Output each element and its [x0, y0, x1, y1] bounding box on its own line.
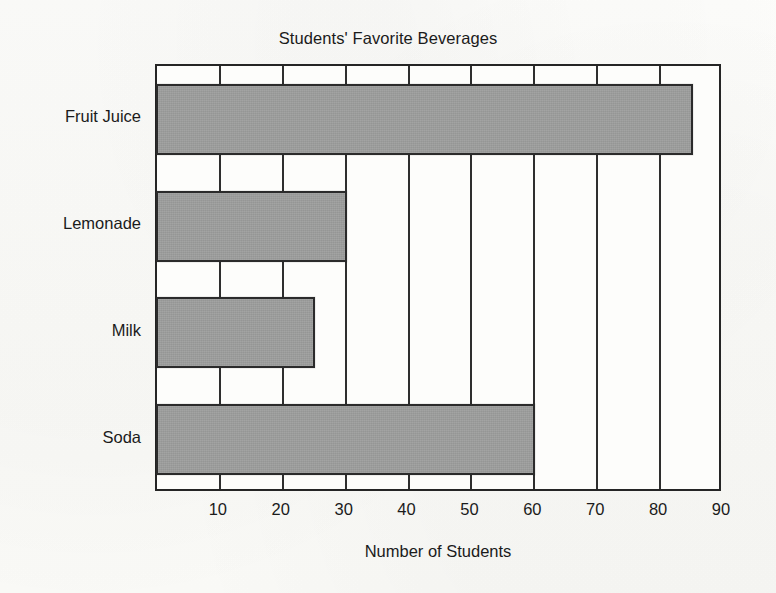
x-tick-label-80: 80 — [638, 500, 678, 519]
x-tick-label-10: 10 — [198, 500, 238, 519]
x-tick-label-70: 70 — [575, 500, 615, 519]
bar-fruit-juice — [156, 84, 693, 155]
plot-area — [155, 64, 721, 491]
bar-soda — [156, 404, 535, 475]
category-label-milk: Milk — [0, 321, 141, 340]
category-label-soda: Soda — [0, 428, 141, 447]
x-tick-label-60: 60 — [512, 500, 552, 519]
x-tick-label-40: 40 — [387, 500, 427, 519]
x-axis-title: Number of Students — [155, 542, 721, 561]
bar-chart: Students' Favorite Beverages Fruit Juice… — [0, 0, 776, 593]
chart-title: Students' Favorite Beverages — [0, 29, 776, 48]
x-tick-label-20: 20 — [261, 500, 301, 519]
bar-lemonade — [156, 191, 347, 262]
x-tick-label-90: 90 — [701, 500, 741, 519]
x-tick-label-30: 30 — [324, 500, 364, 519]
bar-milk — [156, 297, 315, 368]
x-tick-label-50: 50 — [449, 500, 489, 519]
category-label-lemonade: Lemonade — [0, 214, 141, 233]
category-label-fruit-juice: Fruit Juice — [0, 107, 141, 126]
